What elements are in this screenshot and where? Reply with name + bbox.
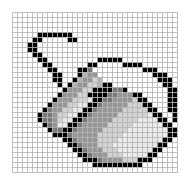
pixel-mouse-canvas <box>0 0 191 184</box>
artwork-stage: Computer Mouse Pixel Icon A two-button c… <box>0 0 191 184</box>
